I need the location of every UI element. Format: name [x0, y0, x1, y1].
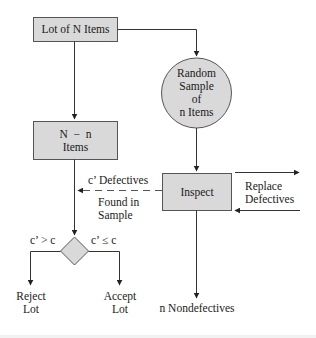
accept-line-1: Accept — [98, 290, 142, 303]
decision-node — [61, 237, 89, 265]
edge-lot-to-sample — [118, 30, 197, 57]
sample-label-line-3: of — [192, 93, 202, 106]
sample-node-label: Random Sample of n Items — [161, 58, 232, 128]
edge-decision-to-accept — [89, 252, 120, 286]
reject-line-1: Reject — [10, 290, 52, 303]
nondefectives-label: n Nondefectives — [156, 302, 238, 315]
inspect-label-line: Inspect — [180, 186, 213, 199]
reject-lot-label: Reject Lot — [10, 290, 52, 316]
lot-node-label: Lot of N Items — [33, 17, 118, 42]
defectives-label-line-2: Found in — [98, 196, 139, 209]
remaining-label-line-1: N − n — [59, 128, 91, 141]
flowchart-canvas — [0, 0, 316, 338]
edge-decision-to-reject — [31, 252, 61, 286]
accept-lot-label: Accept Lot — [98, 290, 142, 316]
remaining-node-label: N − n Items — [33, 121, 118, 160]
sample-label-line-4: n Items — [179, 106, 213, 119]
defectives-label-line-3: Sample — [98, 209, 133, 222]
remaining-label-line-2: Items — [63, 141, 89, 154]
accept-condition-label: c’ ≤ c — [91, 234, 116, 247]
defectives-label-line-1: c’ Defectives — [88, 174, 148, 187]
accept-line-2: Lot — [98, 303, 142, 316]
lot-label-line: Lot of N Items — [41, 23, 109, 36]
sample-label-line-2: Sample — [179, 80, 214, 93]
reject-condition-label: c’ > c — [30, 234, 55, 247]
replace-label-line-2: Defectives — [245, 193, 294, 206]
replace-label-line-1: Replace — [245, 180, 282, 193]
inspect-node-label: Inspect — [162, 173, 232, 211]
reject-line-2: Lot — [10, 303, 52, 316]
sample-label-line-1: Random — [177, 67, 216, 80]
